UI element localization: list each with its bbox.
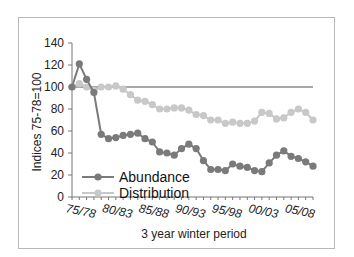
data-point <box>76 80 83 87</box>
data-point <box>163 105 170 112</box>
data-point <box>134 130 141 137</box>
data-point <box>236 163 243 170</box>
x-tick-label: 75/78 <box>65 201 98 221</box>
data-point <box>287 153 294 160</box>
data-point <box>178 104 185 111</box>
data-point <box>229 160 236 167</box>
data-point <box>178 145 185 152</box>
data-point <box>207 116 214 123</box>
data-point <box>120 132 127 139</box>
y-tick-label: 80 <box>51 102 65 116</box>
data-point <box>68 83 75 90</box>
data-point <box>236 120 243 127</box>
legend-label-abundance: Abundance <box>119 169 190 185</box>
data-point <box>214 116 221 123</box>
data-point <box>193 111 200 118</box>
y-axis-title: Indices 75-78=100 <box>30 72 44 171</box>
data-point <box>156 105 163 112</box>
data-point <box>273 152 280 159</box>
data-point <box>90 89 97 96</box>
data-point <box>76 60 83 67</box>
distribution-marker-icon <box>94 189 101 196</box>
data-point <box>287 109 294 116</box>
data-point <box>207 166 214 173</box>
y-tick-label: 0 <box>57 190 64 204</box>
data-point <box>83 76 90 83</box>
data-point <box>258 168 265 175</box>
data-point <box>141 135 148 142</box>
data-point <box>149 101 156 108</box>
abundance-marker-icon <box>94 173 101 180</box>
y-axis: 020406080100120140 <box>44 36 72 204</box>
legend-label-distribution: Distribution <box>119 185 189 201</box>
data-point <box>266 159 273 166</box>
data-point <box>229 119 236 126</box>
data-point <box>105 135 112 142</box>
data-point <box>258 109 265 116</box>
x-tick-label: 05/08 <box>284 201 317 221</box>
x-tick-label: 90/93 <box>174 201 207 221</box>
data-point <box>222 120 229 127</box>
y-tick-label: 40 <box>51 146 65 160</box>
x-axis: 75/7880/8385/8890/9395/9800/0305/08 <box>65 197 317 221</box>
data-point <box>200 157 207 164</box>
data-point <box>134 97 141 104</box>
legend-item-abundance: Abundance <box>82 169 190 185</box>
data-point <box>244 120 251 127</box>
y-tick-label: 120 <box>44 58 64 72</box>
data-point <box>127 131 134 138</box>
data-point <box>171 104 178 111</box>
y-tick-label: 140 <box>44 36 64 50</box>
data-point <box>156 148 163 155</box>
x-tick-label: 80/83 <box>101 201 134 221</box>
x-tick-label: 95/98 <box>211 201 244 221</box>
data-point <box>222 167 229 174</box>
y-tick-label: 20 <box>51 168 65 182</box>
data-point <box>280 147 287 154</box>
data-point <box>309 116 316 123</box>
y-tick-label: 60 <box>51 124 65 138</box>
data-point <box>171 152 178 159</box>
data-point <box>105 83 112 90</box>
y-tick-label: 100 <box>44 80 64 94</box>
data-point <box>193 145 200 152</box>
data-point <box>98 83 105 90</box>
data-point <box>280 114 287 121</box>
legend-item-distribution: Distribution <box>82 185 189 201</box>
data-point <box>251 118 258 125</box>
data-point <box>302 109 309 116</box>
x-tick-label: 00/03 <box>247 201 280 221</box>
data-point <box>302 158 309 165</box>
line-chart: 020406080100120140 75/7880/8385/8890/939… <box>0 0 354 257</box>
x-tick-label: 85/88 <box>138 201 171 221</box>
data-point <box>112 82 119 89</box>
data-point <box>149 138 156 145</box>
data-point <box>214 166 221 173</box>
x-axis-title: 3 year winter period <box>141 227 246 241</box>
series-lines <box>68 60 316 175</box>
data-point <box>266 110 273 117</box>
data-point <box>200 112 207 119</box>
data-point <box>295 105 302 112</box>
data-point <box>141 98 148 105</box>
data-point <box>309 163 316 170</box>
data-point <box>273 115 280 122</box>
data-point <box>251 167 258 174</box>
data-point <box>185 107 192 114</box>
data-point <box>295 155 302 162</box>
data-point <box>163 149 170 156</box>
data-point <box>185 141 192 148</box>
data-point <box>127 91 134 98</box>
data-point <box>120 86 127 93</box>
data-point <box>98 131 105 138</box>
data-point <box>244 164 251 171</box>
legend: Abundance Distribution <box>82 169 190 201</box>
data-point <box>112 134 119 141</box>
